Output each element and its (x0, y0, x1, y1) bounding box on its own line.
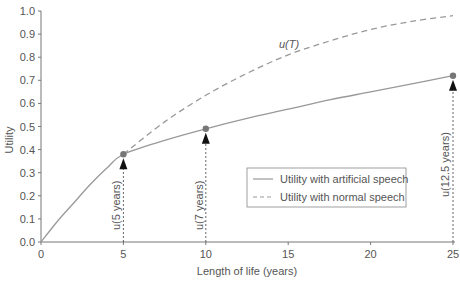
data-point-marker (120, 151, 126, 157)
y-tick-label: 0.4 (20, 144, 35, 156)
artificial-speech-curve (41, 76, 453, 242)
x-tick-label: 25 (447, 248, 459, 260)
y-tick-label: 0.1 (20, 213, 35, 225)
y-tick-label: 1.0 (20, 5, 35, 17)
x-axis-title: Length of life (years) (197, 265, 297, 277)
x-tick-label: 5 (120, 248, 126, 260)
axes: 0.00.10.20.30.40.50.60.70.80.91.00510152… (20, 5, 459, 260)
y-tick-label: 0.5 (20, 121, 35, 133)
data-point-marker (450, 72, 456, 78)
arrow-up-icon (202, 133, 210, 144)
y-tick-label: 0.6 (20, 97, 35, 109)
y-tick-label: 0.2 (20, 190, 35, 202)
x-tick-label: 0 (38, 248, 44, 260)
legend-dashed-label: Utility with normal speech (280, 191, 405, 203)
marker-label-25: u(12.5 years) (439, 132, 451, 197)
data-point-marker (203, 126, 209, 132)
arrow-up-icon (449, 80, 457, 91)
y-tick-label: 0.9 (20, 28, 35, 40)
legend: Utility with artificial speech Utility w… (247, 168, 408, 207)
legend-solid-label: Utility with artificial speech (280, 173, 408, 185)
y-tick-label: 0.7 (20, 74, 35, 86)
markers-group (119, 72, 457, 242)
series-group (41, 16, 453, 242)
y-axis-title: Utility (3, 126, 15, 153)
arrow-up-icon (119, 158, 127, 169)
y-tick-label: 0.8 (20, 51, 35, 63)
utility-chart: 0.00.10.20.30.40.50.60.70.80.91.00510152… (0, 0, 460, 284)
x-tick-label: 15 (282, 248, 294, 260)
marker-label-5: u(5 years) (110, 180, 122, 230)
x-tick-label: 20 (364, 248, 376, 260)
x-tick-label: 10 (200, 248, 212, 260)
y-tick-label: 0.0 (20, 236, 35, 248)
y-tick-label: 0.3 (20, 167, 35, 179)
curve-label-uT: u(T) (279, 38, 300, 50)
marker-label-10: u(7 years) (193, 180, 205, 230)
